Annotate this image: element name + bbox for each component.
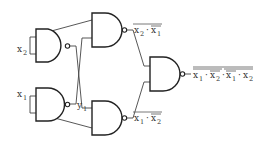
svg-text:2: 2 bbox=[157, 118, 161, 126]
svg-text:·: · bbox=[222, 70, 225, 80]
nand-gate-b bbox=[36, 88, 70, 121]
inversion-bubble-icon bbox=[65, 102, 69, 106]
svg-text:·: · bbox=[146, 113, 149, 123]
input-label-x2: x 2 bbox=[17, 44, 27, 57]
svg-text:1: 1 bbox=[23, 94, 27, 102]
svg-text:x: x bbox=[193, 70, 198, 80]
svg-text:y: y bbox=[76, 100, 83, 110]
svg-text:·: · bbox=[146, 25, 149, 35]
inversion-bubble-icon bbox=[122, 116, 126, 120]
inversion-bubble-icon bbox=[65, 44, 69, 48]
input-label-x1: x 1 bbox=[17, 89, 27, 102]
wire-x2-loop bbox=[30, 37, 36, 54]
inversion-bubble-icon bbox=[180, 72, 184, 76]
logic-circuit-diagram: x 2 x 1 y 1 x 2 · x 1 x 1 · x 2 x 1 · bbox=[0, 0, 264, 145]
svg-text:x: x bbox=[17, 44, 22, 54]
svg-text:x: x bbox=[17, 89, 22, 99]
svg-text:1: 1 bbox=[232, 75, 236, 83]
nand-gate-c bbox=[92, 13, 127, 47]
svg-text:·: · bbox=[238, 70, 241, 80]
svg-text:2: 2 bbox=[140, 30, 144, 38]
svg-text:1: 1 bbox=[83, 105, 87, 113]
svg-text:·: · bbox=[205, 70, 208, 80]
wire-gate-c-to-gate-e bbox=[127, 30, 150, 66]
svg-text:x: x bbox=[226, 70, 231, 80]
wire-not-x2-to-gate-d bbox=[70, 46, 92, 108]
svg-text:x: x bbox=[151, 113, 156, 123]
svg-text:x: x bbox=[134, 113, 139, 123]
svg-text:2: 2 bbox=[249, 75, 253, 83]
svg-text:x: x bbox=[210, 70, 215, 80]
svg-text:2: 2 bbox=[216, 75, 220, 83]
svg-text:x: x bbox=[134, 25, 139, 35]
output-label-top: x 2 · x 1 bbox=[133, 24, 162, 38]
svg-text:x: x bbox=[243, 70, 248, 80]
svg-text:1: 1 bbox=[199, 75, 203, 83]
output-label-bottom: x 1 · x 2 bbox=[133, 112, 162, 126]
wire-x1-loop bbox=[30, 96, 36, 113]
nand-gate-d bbox=[92, 101, 127, 135]
inversion-bubble-icon bbox=[122, 28, 126, 32]
nand-gate-a bbox=[36, 29, 70, 62]
output-label-final: x 1 · x 2 · x 1 · x 2 bbox=[193, 67, 253, 83]
svg-text:x: x bbox=[151, 25, 156, 35]
nand-gate-e bbox=[150, 57, 185, 91]
svg-text:2: 2 bbox=[23, 49, 27, 57]
svg-text:1: 1 bbox=[157, 30, 161, 38]
intermediate-label-y1: y 1 bbox=[76, 100, 87, 113]
svg-text:1: 1 bbox=[140, 118, 144, 126]
